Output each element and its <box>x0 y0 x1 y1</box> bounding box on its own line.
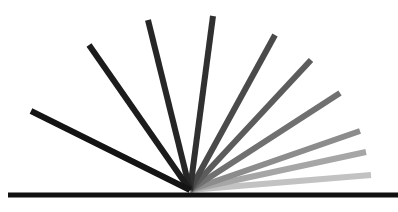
ray-fan-diagram <box>0 0 398 212</box>
rays-group <box>31 16 371 190</box>
ray-1 <box>31 111 190 190</box>
